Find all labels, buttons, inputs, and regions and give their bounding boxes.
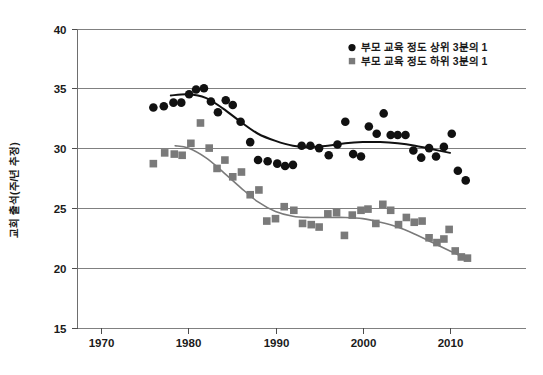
legend-marker-circle-icon — [348, 44, 355, 51]
x-tick-label: 1990 — [264, 337, 290, 349]
legend-label: 부모 교육 정도 상위 3분의 1 — [361, 41, 487, 53]
data-point-square — [229, 173, 237, 181]
data-point-square — [221, 156, 229, 164]
data-point-circle — [333, 140, 342, 149]
data-point-square — [263, 217, 271, 225]
data-point-square — [387, 206, 395, 214]
data-point-square — [246, 191, 254, 199]
data-point-square — [395, 221, 403, 229]
data-point-circle — [306, 141, 315, 150]
data-point-square — [280, 203, 288, 211]
y-tick-label: 20 — [54, 263, 67, 275]
data-point-square — [197, 119, 205, 127]
data-point-circle — [177, 98, 186, 107]
y-tick-label: 30 — [54, 143, 67, 155]
data-point-square — [161, 149, 169, 157]
data-point-square — [238, 168, 246, 176]
y-tick-label: 35 — [54, 83, 67, 95]
data-point-circle — [169, 98, 178, 107]
data-point-square — [299, 220, 307, 228]
data-point-circle — [273, 159, 282, 168]
data-point-square — [425, 234, 433, 242]
data-point-square — [170, 150, 178, 158]
data-point-circle — [228, 101, 237, 110]
data-point-circle — [221, 96, 230, 105]
data-point-circle — [454, 167, 463, 176]
legend-marker-square-icon — [349, 58, 355, 64]
data-point-circle — [447, 129, 456, 138]
data-point-circle — [461, 176, 470, 185]
data-point-circle — [372, 129, 381, 138]
data-point-square — [372, 220, 380, 228]
x-tick-label: 1970 — [89, 337, 115, 349]
data-point-square — [178, 151, 186, 159]
y-tick-label: 40 — [54, 24, 67, 36]
chart-legend: 부모 교육 정도 상위 3분의 1부모 교육 정도 하위 3분의 1 — [348, 41, 487, 67]
data-point-square — [410, 218, 418, 226]
data-point-square — [150, 160, 158, 168]
data-point-square — [433, 239, 441, 247]
data-point-square — [445, 226, 453, 234]
data-point-square — [315, 223, 323, 231]
data-point-square — [272, 215, 280, 223]
data-point-circle — [440, 143, 449, 152]
data-point-circle — [207, 97, 216, 106]
data-point-circle — [401, 131, 410, 140]
y-axis-title: 교회 출석(주/년 추정) — [8, 142, 20, 238]
x-tick-label: 2010 — [438, 337, 464, 349]
data-point-square — [364, 205, 372, 213]
data-point-circle — [425, 144, 434, 153]
x-tick-label: 1980 — [176, 337, 202, 349]
data-point-square — [213, 165, 221, 173]
data-point-circle — [365, 122, 374, 131]
data-point-circle — [160, 102, 169, 111]
x-tick-label: 2000 — [351, 337, 377, 349]
data-point-circle — [315, 144, 324, 153]
data-point-square — [348, 211, 356, 219]
data-point-circle — [349, 150, 358, 159]
data-point-square — [357, 206, 365, 214]
data-point-circle — [254, 156, 263, 165]
data-point-square — [307, 221, 315, 229]
data-point-square — [418, 217, 426, 225]
data-point-circle — [297, 141, 306, 150]
data-point-square — [290, 206, 298, 214]
data-point-circle — [289, 161, 298, 170]
data-point-square — [324, 210, 332, 218]
data-point-circle — [214, 108, 223, 117]
data-point-square — [341, 232, 349, 240]
data-point-circle — [432, 152, 441, 161]
data-point-square — [187, 140, 195, 148]
data-point-circle — [192, 85, 201, 94]
data-point-circle — [185, 90, 194, 99]
y-tick-label: 25 — [54, 203, 67, 215]
data-point-square — [333, 209, 341, 217]
data-point-square — [255, 186, 263, 194]
legend-label: 부모 교육 정도 하위 3분의 1 — [361, 55, 487, 67]
data-point-circle — [417, 153, 426, 162]
data-point-circle — [236, 117, 245, 126]
data-point-circle — [263, 157, 272, 166]
chart-container: 152025303540 19701980199020002010 교회 출석(… — [0, 0, 543, 375]
data-point-circle — [357, 152, 366, 161]
data-point-circle — [341, 117, 350, 126]
church-attendance-scatter-chart: 152025303540 19701980199020002010 교회 출석(… — [0, 0, 543, 375]
data-point-square — [379, 201, 387, 209]
data-point-circle — [149, 103, 158, 112]
data-point-square — [205, 144, 213, 152]
data-point-square — [464, 254, 472, 262]
y-tick-label: 15 — [54, 323, 67, 335]
data-point-circle — [246, 138, 255, 147]
data-point-circle — [379, 109, 388, 118]
data-point-circle — [200, 84, 209, 93]
data-point-square — [403, 214, 411, 222]
data-point-circle — [409, 146, 418, 155]
data-point-circle — [393, 131, 402, 140]
data-point-circle — [281, 162, 290, 171]
data-point-square — [440, 235, 448, 243]
data-point-circle — [324, 151, 333, 160]
